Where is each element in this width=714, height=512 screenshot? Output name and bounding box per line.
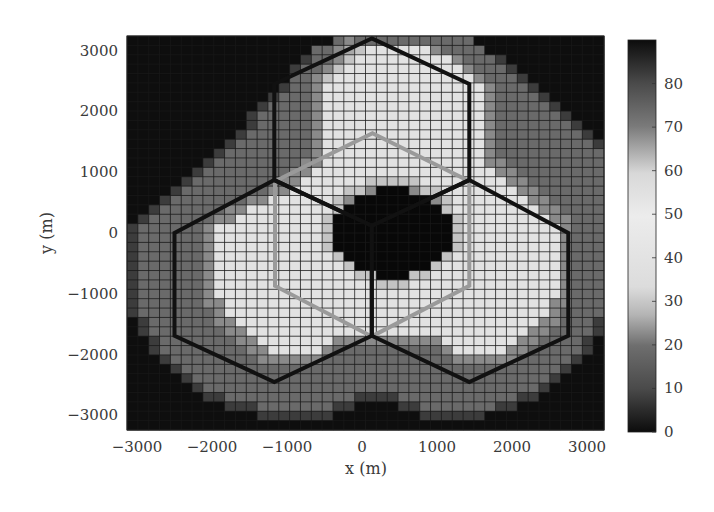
heatmap-cell — [528, 299, 539, 309]
heatmap-cell — [463, 336, 474, 346]
heatmap-cell — [550, 149, 561, 159]
heatmap-cell — [528, 130, 539, 140]
heatmap-cell — [181, 271, 192, 281]
heatmap-cell — [279, 327, 290, 337]
heatmap-cell — [539, 411, 550, 421]
heatmap-cell — [225, 374, 236, 384]
heatmap-cell — [441, 392, 452, 402]
heatmap-cell — [311, 374, 322, 384]
heatmap-cell — [214, 299, 225, 309]
heatmap-cell — [409, 271, 420, 281]
heatmap-cell — [398, 83, 409, 93]
heatmap-cell — [268, 317, 279, 327]
heatmap-cell — [366, 111, 377, 121]
heatmap-cell — [550, 364, 561, 374]
heatmap-cell — [463, 299, 474, 309]
heatmap-cell — [257, 308, 268, 318]
heatmap-cell — [571, 130, 582, 140]
heatmap-cell — [441, 383, 452, 393]
heatmap-cell — [366, 83, 377, 93]
heatmap-cell — [409, 102, 420, 112]
heatmap-cell — [300, 336, 311, 346]
heatmap-cell — [290, 411, 301, 421]
heatmap-cell — [506, 421, 517, 431]
heatmap-cell — [300, 261, 311, 271]
heatmap-cell — [452, 317, 463, 327]
heatmap-cell — [214, 92, 225, 102]
heatmap-cell — [170, 130, 181, 140]
heatmap-cell — [528, 83, 539, 93]
heatmap-cell — [290, 421, 301, 431]
heatmap-cell — [300, 224, 311, 234]
heatmap-cell — [246, 205, 257, 215]
heatmap-cell — [582, 421, 593, 431]
heatmap-cell — [290, 383, 301, 393]
heatmap-cell — [582, 167, 593, 177]
heatmap-cell — [127, 102, 138, 112]
heatmap-cell — [214, 64, 225, 74]
heatmap-cell — [506, 392, 517, 402]
heatmap-cell — [127, 336, 138, 346]
heatmap-cell — [225, 64, 236, 74]
heatmap-cell — [431, 383, 442, 393]
heatmap-cell — [192, 64, 203, 74]
heatmap-cell — [420, 45, 431, 55]
heatmap-cell — [235, 83, 246, 93]
heatmap-cell — [452, 205, 463, 215]
heatmap-cell — [149, 64, 160, 74]
heatmap-cell — [571, 55, 582, 65]
heatmap-cell — [550, 74, 561, 84]
heatmap-cell — [366, 167, 377, 177]
heatmap-cell — [539, 102, 550, 112]
heatmap-cell — [127, 421, 138, 431]
heatmap-cell — [376, 355, 387, 365]
heatmap-cell — [300, 83, 311, 93]
heatmap-cell — [160, 242, 171, 252]
heatmap-cell — [355, 252, 366, 262]
heatmap-cell — [452, 421, 463, 431]
heatmap-cell — [279, 346, 290, 356]
heatmap-cell — [496, 149, 507, 159]
heatmap-cell — [409, 186, 420, 196]
heatmap-cell — [582, 336, 593, 346]
heatmap-cell — [257, 261, 268, 271]
heatmap-cell — [344, 271, 355, 281]
heatmap-cell — [181, 102, 192, 112]
heatmap-cell — [366, 205, 377, 215]
heatmap-cell — [138, 336, 149, 346]
heatmap-cell — [571, 111, 582, 121]
heatmap-cell — [214, 233, 225, 243]
heatmap-cell — [149, 177, 160, 187]
heatmap-cell — [214, 83, 225, 93]
heatmap-cell — [181, 383, 192, 393]
heatmap-cell — [539, 392, 550, 402]
heatmap-cell — [290, 205, 301, 215]
heatmap-cell — [192, 411, 203, 421]
heatmap-cell — [203, 317, 214, 327]
heatmap-cell — [441, 111, 452, 121]
heatmap-cell — [333, 402, 344, 412]
heatmap-cell — [441, 346, 452, 356]
heatmap-cell — [571, 374, 582, 384]
heatmap-cell — [474, 280, 485, 290]
heatmap-cell — [517, 252, 528, 262]
heatmap-cell — [398, 383, 409, 393]
heatmap-cell — [366, 186, 377, 196]
heatmap-cell — [528, 271, 539, 281]
heatmap-cell — [474, 158, 485, 168]
x-tick-label: 3000 — [568, 438, 606, 456]
heatmap-cell — [420, 139, 431, 149]
heatmap-cell — [550, 167, 561, 177]
heatmap-cell — [420, 402, 431, 412]
heatmap-cell — [127, 392, 138, 402]
heatmap-cell — [257, 402, 268, 412]
heatmap-cell — [571, 411, 582, 421]
heatmap-cell — [571, 83, 582, 93]
heatmap-cell — [420, 167, 431, 177]
heatmap-cell — [441, 83, 452, 93]
heatmap-cell — [474, 233, 485, 243]
heatmap-cell — [571, 195, 582, 205]
heatmap-cell — [322, 280, 333, 290]
heatmap-cell — [582, 299, 593, 309]
heatmap-cell — [550, 111, 561, 121]
